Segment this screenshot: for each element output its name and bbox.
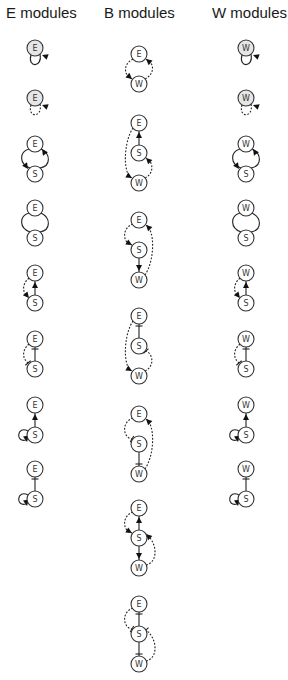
node-s: S <box>238 427 254 443</box>
svg-text:S: S <box>32 170 37 179</box>
svg-text:E: E <box>32 94 37 103</box>
svg-text:E: E <box>136 312 141 321</box>
module-diagram: EEESESESESESESEWESWESWESWESWESWESWWWWSWS… <box>0 0 288 680</box>
node-e: E <box>27 397 43 413</box>
arrowhead-icon <box>42 54 49 60</box>
side-edge <box>125 608 133 629</box>
node-s: S <box>238 491 254 507</box>
svg-text:E: E <box>32 335 37 344</box>
arrowhead-icon <box>146 225 152 231</box>
svg-text:W: W <box>135 470 143 479</box>
arrowhead-icon <box>136 553 142 559</box>
arrowhead-icon <box>32 414 38 420</box>
arrowhead-icon <box>23 291 29 298</box>
svg-text:S: S <box>136 149 141 158</box>
arrowhead-icon <box>136 132 142 138</box>
node-w: W <box>131 76 147 92</box>
svg-text:W: W <box>135 564 143 573</box>
node-e: E <box>27 461 43 477</box>
loop-left <box>22 213 30 232</box>
svg-text:S: S <box>136 534 141 543</box>
svg-text:E: E <box>32 269 37 278</box>
node-s: S <box>131 242 147 258</box>
svg-text:W: W <box>242 94 250 103</box>
node-s: S <box>238 230 254 246</box>
svg-text:W: W <box>242 335 250 344</box>
side-edge <box>145 351 152 371</box>
svg-text:W: W <box>135 660 143 669</box>
loop-right <box>251 213 259 232</box>
node-w: W <box>131 466 147 482</box>
svg-text:E: E <box>136 119 141 128</box>
loop-left <box>233 213 241 232</box>
node-s: S <box>238 361 254 377</box>
svg-text:W: W <box>242 269 250 278</box>
arrowhead-icon <box>125 365 132 371</box>
arrowhead-icon <box>136 517 142 523</box>
svg-text:E: E <box>32 465 37 474</box>
node-w: W <box>238 136 254 152</box>
node-w: W <box>238 40 254 56</box>
arrowhead-icon <box>125 172 132 178</box>
svg-text:S: S <box>243 365 248 374</box>
node-s: S <box>238 166 254 182</box>
svg-text:S: S <box>136 440 141 449</box>
node-e: E <box>131 115 147 131</box>
svg-text:S: S <box>32 431 37 440</box>
svg-text:S: S <box>32 495 37 504</box>
svg-text:E: E <box>136 410 141 419</box>
svg-text:E: E <box>136 600 141 609</box>
node-s: S <box>131 145 147 161</box>
svg-text:S: S <box>32 234 37 243</box>
node-e: E <box>131 596 147 612</box>
svg-text:E: E <box>136 216 141 225</box>
node-s: S <box>131 436 147 452</box>
svg-text:W: W <box>135 276 143 285</box>
node-e: E <box>27 136 43 152</box>
arrowhead-icon <box>32 282 38 288</box>
node-s: S <box>131 338 147 354</box>
node-w: W <box>238 461 254 477</box>
svg-text:S: S <box>243 495 248 504</box>
side-edge <box>125 418 133 439</box>
svg-text:S: S <box>243 299 248 308</box>
arrowhead-icon <box>234 291 240 298</box>
node-s: S <box>27 427 43 443</box>
node-e: E <box>131 46 147 62</box>
node-w: W <box>131 175 147 191</box>
svg-text:E: E <box>32 44 37 53</box>
node-s: S <box>27 361 43 377</box>
node-w: W <box>238 397 254 413</box>
node-s: S <box>27 166 43 182</box>
svg-text:S: S <box>32 299 37 308</box>
arrowhead-icon <box>243 414 249 420</box>
svg-text:S: S <box>243 431 248 440</box>
node-s: S <box>238 295 254 311</box>
node-s: S <box>27 230 43 246</box>
svg-text:W: W <box>242 204 250 213</box>
node-e: E <box>27 331 43 347</box>
arrowhead-icon <box>146 419 152 425</box>
svg-text:E: E <box>32 401 37 410</box>
node-w: W <box>131 656 147 672</box>
arrowhead-icon <box>253 104 260 110</box>
svg-text:W: W <box>242 401 250 410</box>
svg-text:W: W <box>135 80 143 89</box>
svg-text:S: S <box>136 246 141 255</box>
svg-text:W: W <box>135 372 143 381</box>
node-w: W <box>131 368 147 384</box>
svg-text:W: W <box>242 465 250 474</box>
svg-text:E: E <box>136 50 141 59</box>
side-edge <box>235 344 240 363</box>
svg-text:E: E <box>136 504 141 513</box>
node-e: E <box>27 200 43 216</box>
svg-text:S: S <box>32 365 37 374</box>
svg-text:E: E <box>32 140 37 149</box>
svg-text:E: E <box>32 204 37 213</box>
arrowhead-icon <box>42 104 49 110</box>
svg-text:S: S <box>136 342 141 351</box>
svg-text:S: S <box>243 170 248 179</box>
node-w: W <box>238 200 254 216</box>
node-w: W <box>238 90 254 106</box>
node-e: E <box>131 406 147 422</box>
